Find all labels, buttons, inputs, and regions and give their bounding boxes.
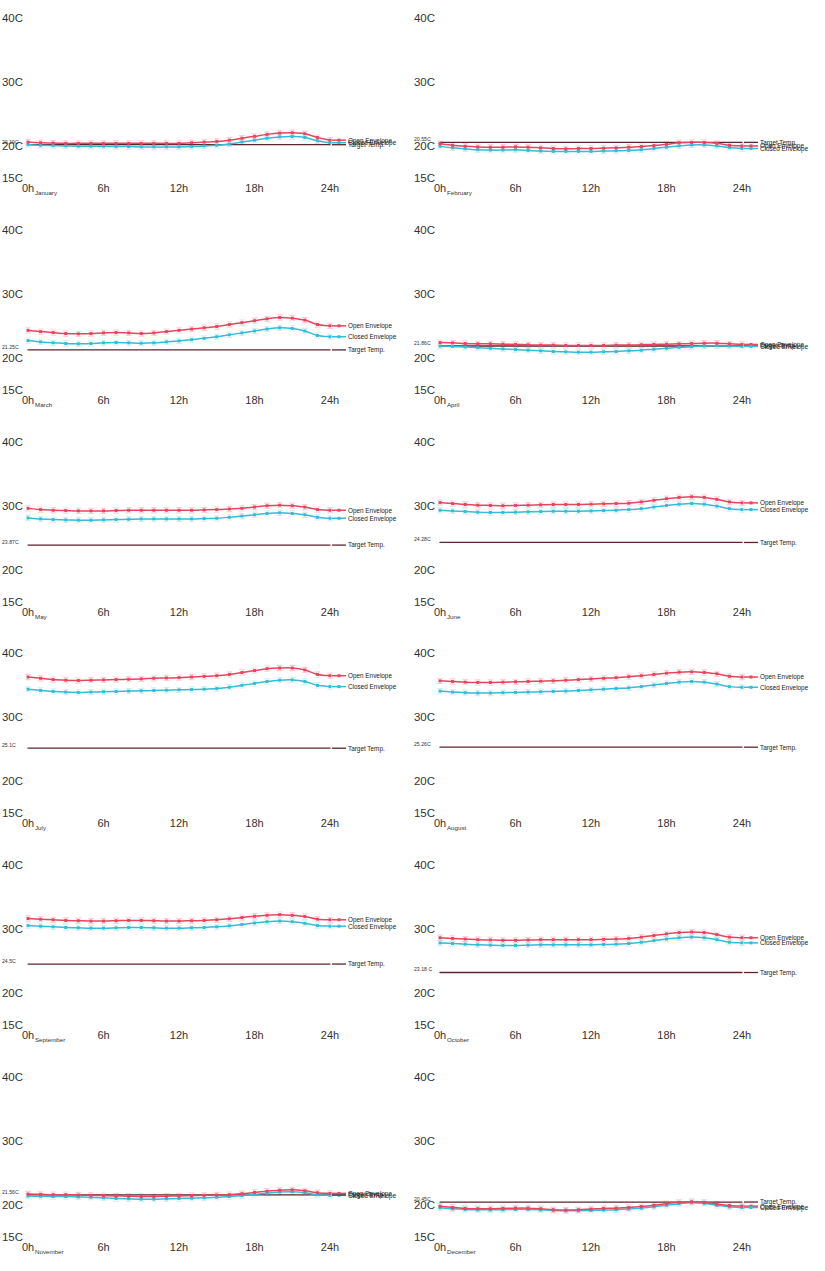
legend-label: Closed Envelope	[760, 939, 809, 947]
chart-panel-march: 40C30C20C15C0h6h12h18h24hMarch21.25COpen…	[0, 212, 412, 424]
y-axis-tick-label: 40C	[414, 647, 435, 659]
x-axis-tick-label: 18h	[657, 182, 675, 194]
target-temp-value-label: 23.18 C	[414, 967, 432, 973]
x-axis-tick-label: 12h	[582, 1029, 600, 1041]
line-chart-april: 40C30C20C15C0h6h12h18h24hApril21.86COpen…	[412, 212, 824, 424]
x-axis-month-label: June	[447, 613, 461, 620]
legend-item-open-envelope: Open Envelope	[744, 674, 804, 682]
target-temp-value-label: 20.45C	[414, 1196, 431, 1202]
x-axis-month-label: September	[35, 1036, 65, 1043]
x-axis-tick-label: 6h	[509, 182, 521, 194]
x-axis-tick-label: 24h	[321, 182, 339, 194]
legend-item-target-temp: Target Temp.	[332, 541, 385, 549]
series-open-envelope	[27, 131, 332, 145]
line-chart-december: 40C30C20C15C0h6h12h18h24hDecember20.45CT…	[412, 1059, 824, 1271]
x-axis-tick-label: 6h	[509, 1029, 521, 1041]
y-axis-tick-label: 15C	[2, 172, 23, 184]
x-axis-tick-label: 6h	[97, 817, 109, 829]
legend-label: Open Envelope	[348, 673, 392, 681]
x-axis-month-label: April	[447, 401, 459, 408]
x-axis-tick-label: 18h	[245, 1241, 263, 1253]
legend-label: Closed Envelope	[760, 506, 809, 514]
x-axis-tick-label: 24h	[733, 1241, 751, 1253]
line-chart-june: 40C30C20C15C0h6h12h18h24hJune24.28COpen …	[412, 424, 824, 636]
y-axis-tick-label: 30C	[2, 1135, 23, 1147]
legend-item-open-envelope: Open Envelope	[332, 322, 392, 330]
y-axis-tick-label: 20C	[2, 987, 23, 999]
legend-label: Closed Envelope	[760, 343, 809, 351]
line-chart-august: 40C30C20C15C0h6h12h18h24hAugust25.26COpe…	[412, 635, 824, 847]
legend-label: Closed Envelope	[348, 683, 397, 691]
y-axis-tick-label: 20C	[2, 352, 23, 364]
chart-panel-april: 40C30C20C15C0h6h12h18h24hApril21.86COpen…	[412, 212, 825, 424]
x-axis-tick-label: 0h	[434, 1241, 446, 1253]
x-axis-tick-label: 24h	[321, 1241, 339, 1253]
x-axis-tick-label: 18h	[657, 1029, 675, 1041]
x-axis-tick-label: 6h	[509, 1241, 521, 1253]
target-temp-value-label: 21.86C	[414, 340, 431, 346]
y-axis-tick-label: 40C	[414, 1071, 435, 1083]
x-axis-tick-label: 18h	[245, 817, 263, 829]
x-axis-tick-label: 18h	[245, 394, 263, 406]
legend-item-target-temp: Target Temp.	[332, 346, 385, 354]
x-axis-tick-label: 18h	[657, 394, 675, 406]
chart-panel-february: 40C30C20C15C0h6h12h18h24hFebruary20.55CT…	[412, 0, 825, 212]
x-axis-tick-label: 6h	[97, 1029, 109, 1041]
x-axis-tick-label: 18h	[245, 182, 263, 194]
y-axis-tick-label: 30C	[2, 76, 23, 88]
y-axis-tick-label: 15C	[414, 596, 435, 608]
y-axis-tick-label: 30C	[2, 923, 23, 935]
y-axis-tick-label: 15C	[414, 1019, 435, 1031]
x-axis-month-label: January	[35, 189, 58, 196]
y-axis-tick-label: 15C	[2, 384, 23, 396]
y-axis-tick-label: 40C	[2, 435, 23, 447]
legend-label: Closed Envelope	[760, 684, 809, 692]
x-axis-month-label: November	[35, 1248, 64, 1255]
y-axis-tick-label: 40C	[414, 12, 435, 24]
chart-panel-october: 40C30C20C15C0h6h12h18h24hOctober23.18 CO…	[412, 847, 825, 1059]
chart-panel-september: 40C30C20C15C0h6h12h18h24hSeptember24.5CO…	[0, 847, 412, 1059]
x-axis-tick-label: 0h	[434, 606, 446, 618]
y-axis-tick-label: 15C	[414, 172, 435, 184]
x-axis-tick-label: 12h	[170, 394, 188, 406]
y-axis-tick-label: 15C	[2, 1019, 23, 1031]
x-axis-tick-label: 18h	[245, 606, 263, 618]
x-axis-tick-label: 24h	[321, 817, 339, 829]
y-axis-tick-label: 40C	[2, 12, 23, 24]
y-axis-tick-label: 30C	[2, 499, 23, 511]
legend-item-open-envelope: Open Envelope	[332, 673, 392, 681]
x-axis-month-label: August	[447, 824, 467, 831]
x-axis-tick-label: 6h	[509, 817, 521, 829]
legend-label: Closed Envelope	[760, 145, 809, 153]
line-chart-october: 40C30C20C15C0h6h12h18h24hOctober23.18 CO…	[412, 847, 824, 1059]
line-chart-march: 40C30C20C15C0h6h12h18h24hMarch21.25COpen…	[0, 212, 412, 424]
legend-label: Open Envelope	[760, 674, 804, 682]
y-axis-tick-label: 20C	[2, 1199, 23, 1211]
x-axis-tick-label: 6h	[509, 394, 521, 406]
line-chart-january: 40C30C20C15C0h6h12h18h24hJanuary20.19COp…	[0, 0, 412, 212]
legend-item-closed-envelope: Closed Envelope	[744, 939, 809, 947]
x-axis-tick-label: 0h	[434, 1029, 446, 1041]
y-axis-tick-label: 40C	[2, 859, 23, 871]
y-axis-tick-label: 15C	[414, 807, 435, 819]
x-axis-tick-label: 6h	[97, 606, 109, 618]
legend-label: Target Temp.	[348, 745, 385, 753]
line-chart-february: 40C30C20C15C0h6h12h18h24hFebruary20.55CT…	[412, 0, 824, 212]
legend-label: Closed Envelope	[348, 514, 397, 522]
legend-label: Target Temp.	[760, 969, 797, 977]
y-axis-tick-label: 20C	[2, 775, 23, 787]
x-axis-tick-label: 12h	[170, 1241, 188, 1253]
x-axis-month-label: March	[35, 401, 53, 408]
scatter-band-open	[26, 502, 333, 513]
x-axis-tick-label: 6h	[97, 182, 109, 194]
y-axis-tick-label: 40C	[414, 859, 435, 871]
target-temp-value-label: 24.28C	[414, 536, 431, 542]
legend-label: Target Temp.	[348, 141, 385, 149]
x-axis-tick-label: 12h	[170, 1029, 188, 1041]
x-axis-tick-label: 24h	[733, 606, 751, 618]
chart-panel-may: 40C30C20C15C0h6h12h18h24hMay23.87COpen E…	[0, 424, 412, 636]
legend-label: Target Temp.	[348, 1191, 385, 1199]
y-axis-tick-label: 20C	[414, 987, 435, 999]
x-axis-month-label: October	[447, 1036, 469, 1043]
line-chart-may: 40C30C20C15C0h6h12h18h24hMay23.87COpen E…	[0, 424, 412, 636]
